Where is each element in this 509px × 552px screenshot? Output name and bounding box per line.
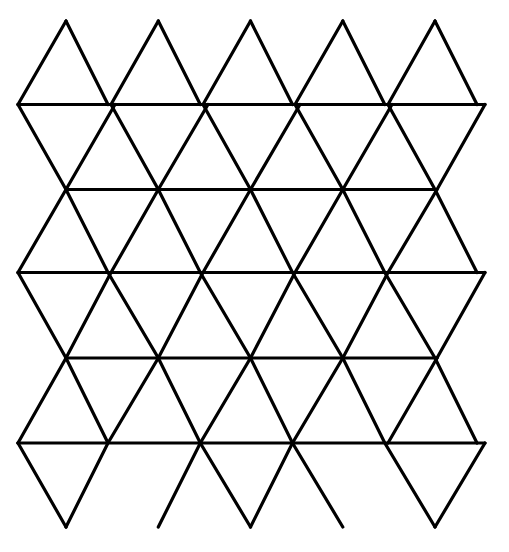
figure-root bbox=[0, 0, 509, 552]
figure-background bbox=[0, 0, 509, 552]
triangular-lattice-svg bbox=[0, 0, 509, 552]
